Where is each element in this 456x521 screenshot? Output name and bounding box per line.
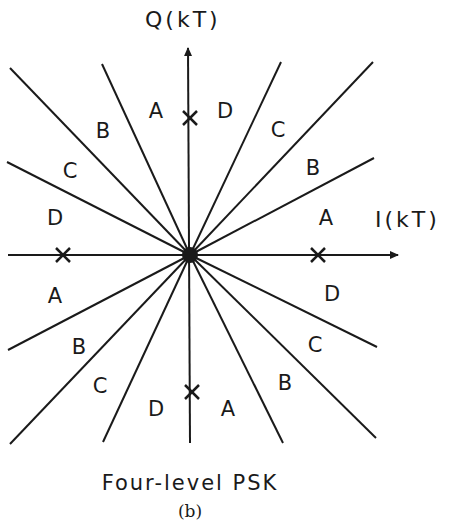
region-label: C <box>271 118 286 142</box>
region-label: B <box>96 119 110 143</box>
region-label: D <box>324 282 340 306</box>
q-axis-label: Q(kT) <box>145 7 221 32</box>
boundary-line <box>190 255 377 347</box>
region-label: A <box>221 397 236 421</box>
region-label: A <box>48 284 63 308</box>
boundary-line <box>190 158 374 255</box>
boundary-line <box>102 64 190 255</box>
boundary-line <box>103 255 190 442</box>
boundary-line <box>10 68 190 255</box>
psk-decision-region-diagram: Q(kT) I(kT) ADBCCBDAADBCCBDA Four-level … <box>0 0 456 521</box>
origin-point <box>182 247 198 263</box>
boundary-line <box>190 255 283 443</box>
boundary-line <box>190 62 373 255</box>
region-label: D <box>148 397 164 421</box>
region-label: A <box>319 206 334 230</box>
region-label: C <box>308 333 323 357</box>
region-label: A <box>149 99 164 123</box>
boundary-line <box>190 255 376 438</box>
constellation-point-x-icon <box>185 385 199 399</box>
region-label: B <box>72 335 86 359</box>
region-label: D <box>47 206 63 230</box>
diagram-subcaption: (b) <box>178 501 202 521</box>
q-axis <box>188 48 190 443</box>
region-label: C <box>63 159 78 183</box>
boundary-line <box>8 255 190 350</box>
region-label: D <box>217 99 233 123</box>
i-axis-label: I(kT) <box>375 207 440 232</box>
constellation-point-x-icon <box>183 111 197 125</box>
region-label: B <box>278 371 292 395</box>
region-label: B <box>306 156 320 180</box>
boundary-line <box>7 162 190 255</box>
region-label: C <box>93 374 108 398</box>
diagram-title: Four-level PSK <box>102 471 279 495</box>
boundary-line <box>190 62 281 255</box>
